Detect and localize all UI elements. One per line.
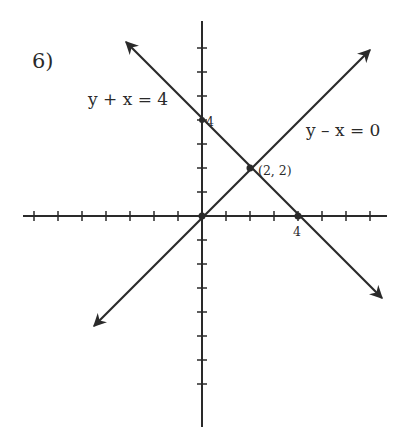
x-tick-label-4: 4 (293, 224, 301, 239)
point-origin (199, 213, 206, 220)
point-intersection (247, 165, 254, 172)
point-y-intercept (199, 117, 205, 123)
graph-canvas: 6) y + x = 4 y – x = 0 (2, 2) 4 4 (0, 0, 401, 440)
point-x-intercept (295, 213, 302, 220)
problem-number: 6) (32, 49, 54, 73)
y-tick-label-4: 4 (206, 114, 214, 129)
line-y-plus-x-equals-4 (126, 42, 382, 298)
equation-label-2: y – x = 0 (305, 120, 380, 140)
intersection-label: (2, 2) (258, 163, 292, 178)
equation-label-1: y + x = 4 (87, 89, 168, 109)
